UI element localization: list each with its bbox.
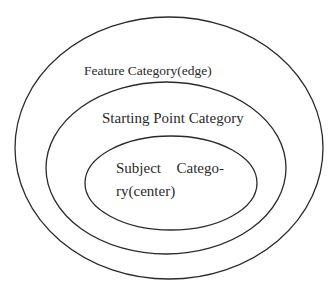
subject-category-label-line2: ry(center) xyxy=(116,180,224,203)
subject-word: Subject xyxy=(116,157,161,180)
subject-category-label: Subject Catego- ry(center) xyxy=(116,157,224,203)
subject-category-label-line1: Subject Catego- xyxy=(116,157,224,180)
starting-point-category-label: Starting Point Category xyxy=(102,110,244,127)
nested-ellipses-diagram xyxy=(0,0,336,295)
category-word-hyphenated: Catego- xyxy=(177,157,224,180)
feature-category-label: Feature Category(edge) xyxy=(84,63,212,79)
outer-ellipse-feature-category xyxy=(15,17,323,279)
